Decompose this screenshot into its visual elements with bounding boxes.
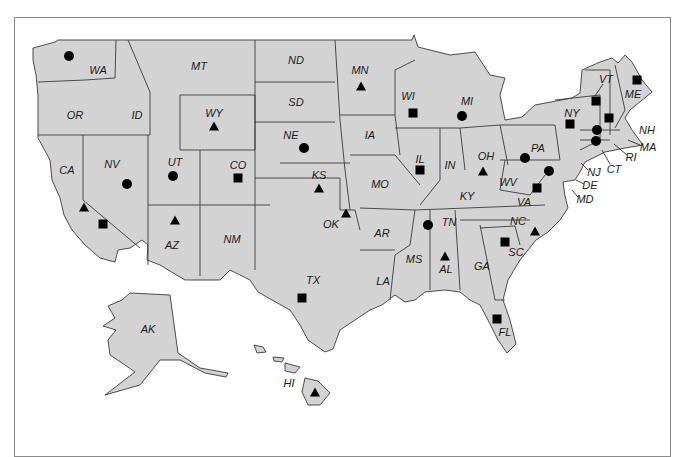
- triangle-marker-icon: [341, 209, 351, 218]
- state-label-oh: OH: [478, 151, 495, 162]
- state-label-ne: NE: [283, 130, 298, 141]
- circle-marker-icon: [168, 171, 178, 181]
- state-label-ky: KY: [460, 191, 475, 202]
- square-marker-icon: [493, 315, 502, 324]
- state-label-id: ID: [132, 110, 143, 121]
- circle-marker-icon: [122, 179, 132, 189]
- square-marker-icon: [533, 184, 542, 193]
- state-label-sc: SC: [508, 247, 523, 258]
- state-label-co: CO: [230, 160, 247, 171]
- state-label-mo: MO: [371, 179, 389, 190]
- state-label-az: AZ: [165, 240, 179, 251]
- square-marker-icon: [409, 109, 418, 118]
- state-label-pa: PA: [531, 143, 545, 154]
- state-label-fl: FL: [499, 327, 512, 338]
- state-label-ms: MS: [406, 254, 423, 265]
- state-label-mi: MI: [461, 96, 473, 107]
- state-label-ga: GA: [474, 261, 490, 272]
- state-label-or: OR: [67, 110, 84, 121]
- state-label-mt: MT: [191, 61, 207, 72]
- circle-marker-icon: [423, 220, 433, 230]
- state-label-wi: WI: [401, 91, 414, 102]
- square-marker-icon: [234, 174, 243, 183]
- triangle-marker-icon: [79, 203, 89, 212]
- square-marker-icon: [298, 294, 307, 303]
- state-label-il: IL: [415, 154, 424, 165]
- circle-marker-icon: [64, 51, 74, 61]
- state-label-ia: IA: [365, 130, 375, 141]
- state-label-ak: AK: [141, 324, 156, 335]
- state-label-nc: NC: [510, 216, 526, 227]
- circle-marker-icon: [520, 153, 530, 163]
- state-label-ri: RI: [626, 152, 637, 163]
- state-label-nv: NV: [104, 159, 119, 170]
- state-label-va: VA: [517, 197, 531, 208]
- circle-marker-icon: [299, 143, 309, 153]
- hawaii-oahu-shape: [254, 345, 266, 353]
- state-label-vt: VT: [599, 74, 613, 85]
- triangle-marker-icon: [209, 122, 219, 131]
- state-label-al: AL: [439, 264, 452, 275]
- state-label-nd: ND: [288, 55, 304, 66]
- state-label-nh: NH: [639, 125, 655, 136]
- triangle-marker-icon: [478, 167, 488, 176]
- square-marker-icon: [592, 97, 601, 106]
- triangle-marker-icon: [530, 227, 540, 236]
- state-label-la: LA: [376, 276, 389, 287]
- square-marker-icon: [605, 114, 614, 123]
- state-label-ca: CA: [59, 165, 74, 176]
- square-marker-icon: [566, 120, 575, 129]
- circle-marker-icon: [592, 125, 602, 135]
- state-label-me: ME: [625, 89, 642, 100]
- state-label-in: IN: [445, 160, 456, 171]
- state-label-tn: TN: [442, 217, 457, 228]
- alaska-shape: [103, 293, 228, 395]
- state-label-de: DE: [582, 180, 597, 191]
- circle-marker-icon: [457, 111, 467, 121]
- triangle-marker-icon: [310, 388, 320, 397]
- state-label-ct: CT: [607, 164, 622, 175]
- state-label-nj: NJ: [587, 167, 600, 178]
- state-label-wy: WY: [205, 108, 223, 119]
- triangle-marker-icon: [314, 184, 324, 193]
- state-label-md: MD: [576, 194, 593, 205]
- state-label-ks: KS: [312, 170, 327, 181]
- state-label-hi: HI: [284, 378, 295, 389]
- triangle-marker-icon: [356, 82, 366, 91]
- circle-marker-icon: [544, 166, 554, 176]
- state-label-ut: UT: [168, 157, 183, 168]
- hawaii-molokai-shape: [273, 357, 284, 362]
- state-label-mn: MN: [351, 65, 368, 76]
- square-marker-icon: [501, 238, 510, 247]
- triangle-marker-icon: [440, 252, 450, 261]
- triangle-marker-icon: [170, 216, 180, 225]
- state-label-ny: NY: [564, 108, 579, 119]
- hawaii-maui-shape: [285, 363, 300, 373]
- state-label-ok: OK: [323, 219, 339, 230]
- state-label-wv: WV: [499, 177, 517, 188]
- state-label-wa: WA: [89, 65, 107, 76]
- square-marker-icon: [416, 166, 425, 175]
- circle-marker-icon: [591, 136, 601, 146]
- state-label-nm: NM: [223, 234, 240, 245]
- state-label-ar: AR: [374, 228, 389, 239]
- state-label-sd: SD: [288, 97, 303, 108]
- square-marker-icon: [633, 76, 642, 85]
- state-label-tx: TX: [306, 275, 320, 286]
- square-marker-icon: [99, 220, 108, 229]
- state-label-ma: MA: [640, 142, 657, 153]
